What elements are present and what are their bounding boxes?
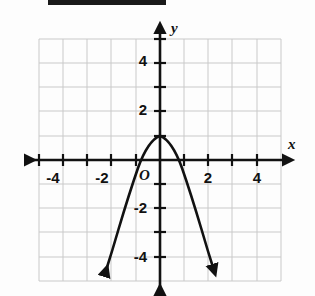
x-tick-label--2: -2 (95, 169, 108, 186)
x-axis-label: x (287, 136, 296, 152)
y-tick-label--2: -2 (134, 199, 147, 216)
coordinate-plane-figure: y x O -4 -2 2 4 4 2 -2 -4 (0, 0, 315, 296)
coordinate-plane-svg: y x O -4 -2 2 4 4 2 -2 -4 (0, 0, 315, 296)
x-tick-label-4: 4 (253, 169, 262, 186)
y-axis-label: y (169, 20, 178, 36)
y-tick-label-2: 2 (139, 101, 147, 118)
y-tick-label--4: -4 (134, 248, 148, 265)
origin-label: O (139, 167, 150, 183)
x-tick-label--4: -4 (46, 169, 60, 186)
x-tick-label-2: 2 (204, 169, 212, 186)
figure-page: y x O -4 -2 2 4 4 2 -2 -4 (0, 0, 315, 296)
y-tick-label-4: 4 (139, 52, 148, 69)
